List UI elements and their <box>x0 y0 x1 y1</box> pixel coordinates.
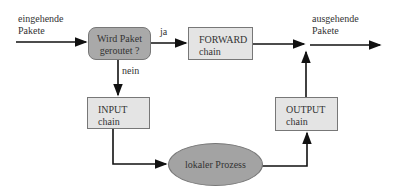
forward-chain-line2: chain <box>199 46 252 58</box>
outgoing-label-line2: Pakete <box>312 25 359 37</box>
input-chain-line1: INPUT <box>98 104 149 116</box>
local-process-node: lokaler Prozess <box>168 143 263 186</box>
forward-chain-line1: FORWARD <box>199 34 252 46</box>
input-chain-node: INPUT chain <box>87 97 150 129</box>
no-label: nein <box>122 65 139 77</box>
outgoing-packets-label: ausgehende Pakete <box>312 13 359 37</box>
decision-line2: geroutet ? <box>89 45 150 57</box>
output-chain-node: OUTPUT chain <box>275 97 338 131</box>
yes-label: ja <box>160 26 167 38</box>
output-chain-line1: OUTPUT <box>286 104 337 116</box>
outgoing-label-line1: ausgehende <box>312 13 359 25</box>
forward-chain-node: FORWARD chain <box>188 27 253 60</box>
incoming-label-line1: eingehende <box>18 13 64 25</box>
incoming-label-line2: Pakete <box>18 25 64 37</box>
routing-decision-node: Wird Paket geroutet ? <box>88 27 151 60</box>
local-process-label: lokaler Prozess <box>185 159 246 171</box>
output-chain-line2: chain <box>286 116 337 128</box>
input-chain-line2: chain <box>98 116 149 128</box>
incoming-packets-label: eingehende Pakete <box>18 13 64 37</box>
decision-line1: Wird Paket <box>89 33 150 45</box>
